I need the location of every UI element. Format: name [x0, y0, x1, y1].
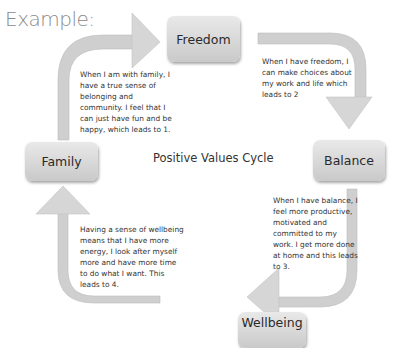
- node-family: Family: [25, 142, 98, 181]
- node-wellbeing-label: Wellbeing: [241, 315, 302, 330]
- description-freedom-to-balance: When I have freedom, I can make choices …: [262, 56, 352, 100]
- node-wellbeing: Wellbeing: [238, 312, 306, 348]
- description-wellbeing-to-family: Having a sense of wellbeing means that I…: [80, 224, 184, 290]
- description-family-to-freedom: When I am with family, I have a true sen…: [80, 69, 172, 135]
- node-family-label: Family: [41, 154, 81, 169]
- node-balance: Balance: [313, 140, 385, 181]
- example-heading: Example:: [5, 7, 95, 31]
- node-freedom-label: Freedom: [176, 32, 230, 47]
- diagram-title: Positive Values Cycle: [153, 151, 274, 165]
- node-freedom: Freedom: [167, 16, 240, 62]
- description-balance-to-wellbeing: When I have balance, I feel more product…: [273, 195, 358, 272]
- node-balance-label: Balance: [324, 153, 374, 168]
